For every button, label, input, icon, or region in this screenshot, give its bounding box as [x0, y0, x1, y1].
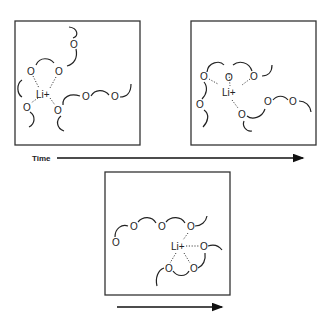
panel-3: O O O O O O O Li+ [105, 172, 230, 295]
oxygen-atom: O [27, 66, 35, 77]
oxygen-atom: O [264, 96, 272, 107]
oxygen-atom: O [55, 66, 63, 77]
panel-1: O O O O O O O Li+ [15, 21, 140, 145]
panel-3-frame [105, 172, 230, 295]
oxygen-atom: O [70, 39, 78, 50]
oxygen-atom: O [158, 221, 166, 232]
oxygen-atom: O [187, 221, 195, 232]
oxygen-atom: O [238, 109, 246, 120]
lithium-ion-label: Li+ [171, 241, 185, 252]
panel-2-frame [191, 21, 316, 145]
oxygen-atom: O [165, 263, 173, 274]
time-axis: Time [32, 154, 303, 163]
time-label: Time [32, 154, 51, 163]
oxygen-atom: O [196, 99, 204, 110]
panel-2: O O O O O O O O Li+ [191, 21, 316, 145]
li-ion-hopping-diagram: O O O O O O O Li+ O O O O O O O O Li+ [0, 0, 332, 315]
oxygen-atom: O [289, 96, 297, 107]
oxygen-atom: O [111, 91, 119, 102]
oxygen-atom: O [200, 241, 208, 252]
oxygen-atom: O [54, 105, 62, 116]
oxygen-atom: O [190, 263, 198, 274]
oxygen-atom: O [130, 221, 138, 232]
oxygen-atom: O [82, 91, 90, 102]
lithium-ion-label: Li+ [222, 87, 236, 98]
oxygen-atom: O [23, 102, 31, 113]
oxygen-atom: O [200, 71, 208, 82]
oxygen-atom: O [250, 71, 258, 82]
oxygen-atom: O [112, 237, 120, 248]
